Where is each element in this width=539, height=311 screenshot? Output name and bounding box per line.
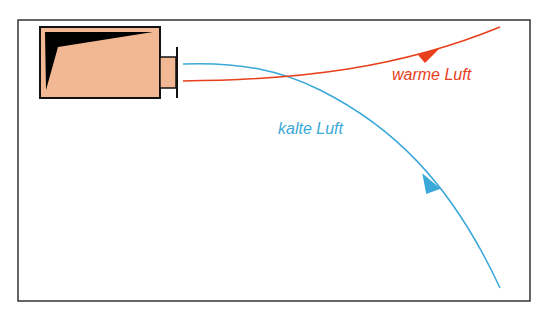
device-icon [40,27,177,98]
cold-air-label: kalte Luft [278,120,343,138]
cold-air-arrow-icon [422,171,441,194]
diagram-canvas [0,0,539,311]
warm-air-label: warme Luft [392,66,471,84]
cold-air-curve [183,64,500,288]
warm-air-arrow-icon [418,48,440,63]
